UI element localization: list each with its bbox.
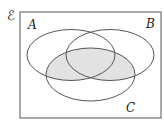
venn-diagram: ℰ A B C — [0, 0, 164, 121]
set-c-label: C — [126, 101, 135, 115]
set-a-label: A — [27, 18, 37, 32]
universal-set-label: ℰ — [7, 8, 15, 23]
set-b-label: B — [145, 17, 155, 31]
